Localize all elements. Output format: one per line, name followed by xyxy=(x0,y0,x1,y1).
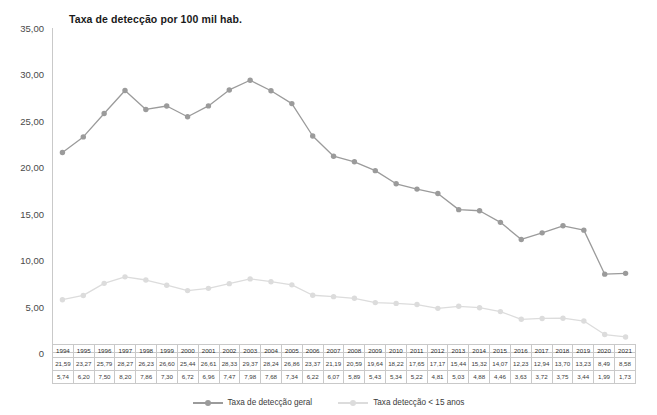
data-point-marker xyxy=(456,207,461,212)
table-cell-value: 28,27 xyxy=(115,358,136,371)
table-cell-value: 7,30 xyxy=(157,371,178,384)
data-point-marker xyxy=(143,107,148,112)
table-cell-value: 5,43 xyxy=(365,371,386,384)
table-cell-year: 2021 xyxy=(614,345,635,358)
data-point-marker xyxy=(81,293,86,298)
data-point-marker xyxy=(268,279,273,284)
data-point-marker xyxy=(122,88,127,93)
table-cell-value: 19,64 xyxy=(365,358,386,371)
data-point-marker xyxy=(435,191,440,196)
data-point-marker xyxy=(539,316,544,321)
legend-marker-icon xyxy=(338,398,368,407)
table-cell-value: 12,23 xyxy=(510,358,531,371)
table-cell-value: 17,65 xyxy=(406,358,427,371)
legend-item[interactable]: Taxa de detecção geral xyxy=(193,398,313,407)
table-cell-year: 1999 xyxy=(157,345,178,358)
table-cell-year: 2018 xyxy=(552,345,573,358)
table-row-general: 21,5923,2725,7928,2726,2326,6025,4426,61… xyxy=(53,358,636,371)
y-tick-label: 20,00 xyxy=(20,162,44,173)
table-cell-value: 7,34 xyxy=(281,371,302,384)
table-cell-year: 2007 xyxy=(323,345,344,358)
data-point-marker xyxy=(206,286,211,291)
table-cell-value: 21,19 xyxy=(323,358,344,371)
data-point-marker xyxy=(560,223,565,228)
table-cell-value: 8,58 xyxy=(614,358,635,371)
chart-legend: Taxa de detecção geralTaxa detecção < 15… xyxy=(0,398,657,407)
table-cell-year: 2000 xyxy=(177,345,198,358)
table-cell-year: 2014 xyxy=(469,345,490,358)
table-cell-year: 2015 xyxy=(490,345,511,358)
data-point-marker xyxy=(331,294,336,299)
data-point-marker xyxy=(289,282,294,287)
data-point-marker xyxy=(101,111,106,116)
data-point-marker xyxy=(519,237,524,242)
table-cell-value: 5,34 xyxy=(386,371,407,384)
table-row-under15: 5,746,207,508,207,867,306,726,967,477,98… xyxy=(53,371,636,384)
data-point-marker xyxy=(143,277,148,282)
table-cell-year: 2004 xyxy=(261,345,282,358)
plot-area xyxy=(52,28,636,353)
data-point-marker xyxy=(414,186,419,191)
table-cell-value: 5,89 xyxy=(344,371,365,384)
table-cell-value: 7,68 xyxy=(261,371,282,384)
data-point-marker xyxy=(623,334,628,339)
table-cell-value: 18,22 xyxy=(386,358,407,371)
data-point-marker xyxy=(164,103,169,108)
table-cell-value: 3,44 xyxy=(573,371,594,384)
table-cell-year: 1997 xyxy=(115,345,136,358)
table-cell-value: 23,37 xyxy=(302,358,323,371)
data-point-marker xyxy=(352,159,357,164)
data-point-marker xyxy=(164,283,169,288)
y-tick-label: 0 xyxy=(39,348,44,359)
y-tick-label: 10,00 xyxy=(20,255,44,266)
data-point-marker xyxy=(60,150,65,155)
table-cell-value: 13,70 xyxy=(552,358,573,371)
data-point-marker xyxy=(310,133,315,138)
table-cell-year: 1994 xyxy=(53,345,74,358)
data-point-marker xyxy=(560,315,565,320)
table-cell-value: 26,23 xyxy=(136,358,157,371)
table-cell-year: 2005 xyxy=(281,345,302,358)
legend-marker-icon xyxy=(193,398,223,407)
table-cell-value: 5,03 xyxy=(448,371,469,384)
table-cell-value: 6,96 xyxy=(198,371,219,384)
data-point-marker xyxy=(519,317,524,322)
table-cell-value: 6,72 xyxy=(177,371,198,384)
data-point-marker xyxy=(498,309,503,314)
table-cell-year: 2006 xyxy=(302,345,323,358)
data-point-marker xyxy=(310,293,315,298)
data-point-marker xyxy=(247,276,252,281)
table-cell-year: 2016 xyxy=(510,345,531,358)
data-point-marker xyxy=(498,220,503,225)
data-point-marker xyxy=(414,302,419,307)
data-point-marker xyxy=(393,181,398,186)
table-cell-value: 6,22 xyxy=(302,371,323,384)
data-point-marker xyxy=(206,103,211,108)
table-cell-value: 7,47 xyxy=(219,371,240,384)
data-point-marker xyxy=(227,87,232,92)
table-cell-value: 15,44 xyxy=(448,358,469,371)
table-cell-year: 2013 xyxy=(448,345,469,358)
table-cell-value: 4,81 xyxy=(427,371,448,384)
series-plot xyxy=(52,28,636,353)
y-axis-labels: 05,0010,0015,0020,0025,0030,0035,00 xyxy=(0,28,48,353)
table-cell-value: 25,44 xyxy=(177,358,198,371)
chart-container: Taxa de detecção por 100 mil hab. 05,001… xyxy=(0,0,657,415)
table-cell-value: 8,49 xyxy=(594,358,615,371)
series-line xyxy=(62,277,625,337)
table-cell-year: 1998 xyxy=(136,345,157,358)
table-cell-year: 2002 xyxy=(219,345,240,358)
table-cell-value: 6,07 xyxy=(323,371,344,384)
table-cell-value: 28,24 xyxy=(261,358,282,371)
legend-item[interactable]: Taxa detecção < 15 anos xyxy=(338,398,464,407)
series-group-general xyxy=(60,78,629,277)
table-cell-value: 5,22 xyxy=(406,371,427,384)
table-cell-value: 4,46 xyxy=(490,371,511,384)
table-cell-value: 7,50 xyxy=(94,371,115,384)
data-point-marker xyxy=(331,154,336,159)
table-cell-value: 7,98 xyxy=(240,371,261,384)
data-point-marker xyxy=(456,304,461,309)
table-cell-value: 3,75 xyxy=(552,371,573,384)
table-cell-value: 15,32 xyxy=(469,358,490,371)
data-point-marker xyxy=(393,301,398,306)
